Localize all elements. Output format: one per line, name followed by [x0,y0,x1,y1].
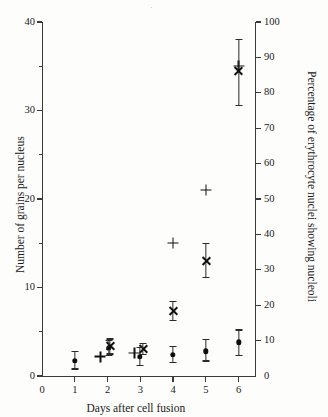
y-tick-left-30 [37,110,42,111]
error-bar-cap-lower [71,368,78,369]
y-minor-tick-left-5 [39,331,42,332]
x-ticklabel-6: 6 [229,385,249,396]
data-point-plus [200,185,211,196]
y-ticklabel-right-20: 20 [264,300,286,311]
x-ticklabel-3: 3 [130,385,150,396]
y-tick-right-100 [256,21,261,22]
x-tick-5 [205,377,206,382]
error-bar-cap-lower [235,355,242,356]
error-bar-cap-lower [235,105,242,106]
error-bar-cap-upper [235,329,242,330]
x-tick-2 [107,377,108,382]
x-axis-title: Days after cell fusion [87,402,186,414]
error-bar-cap-lower [170,362,177,363]
y-ticklabel-right-30: 30 [264,264,286,275]
y-tick-right-20 [256,305,261,306]
error-bar-cap-upper [105,340,112,341]
data-point-plus [95,351,106,362]
error-bar-cap-lower [136,365,143,366]
y-minor-tick-left-25 [39,154,42,155]
x-ticklabel-2: 2 [98,385,118,396]
error-bar-cap-lower [105,355,112,356]
y-tick-left-20 [37,198,42,199]
y-tick-right-80 [256,92,261,93]
x-tick-4 [172,377,173,382]
y-axis-left-line [42,22,43,377]
error-bar-cap-upper [170,346,177,347]
error-bar-cap-lower [202,277,209,278]
y-tick-right-30 [256,269,261,270]
error-bar-cap-upper [71,351,78,352]
figure-scatter-plot: · Number of grains per nucleus Percentag… [0,0,328,417]
error-bar-cap-upper [136,347,143,348]
x-tick-1 [74,377,75,382]
y-tick-right-90 [256,57,261,58]
error-bar-cap-lower [202,360,209,361]
y-ticklabel-left-0: 0 [10,371,35,382]
x-tick-6 [238,377,239,382]
y-tick-left-10 [37,287,42,288]
error-bar-cap-lower [170,320,177,321]
page-artifact-mark: · [150,2,153,12]
data-point-cross [168,306,179,317]
error-bar-cap-upper [170,301,177,302]
plot-area [42,22,255,376]
y-ticklabel-left-30: 30 [10,105,35,116]
y-ticklabel-left-20: 20 [10,194,35,205]
y-tick-right-50 [256,198,261,199]
y-ticklabel-right-70: 70 [264,123,286,134]
data-point-cross [200,255,211,266]
data-point-plus [168,238,179,249]
y-ticklabel-left-40: 40 [10,17,35,28]
x-tick-3 [140,377,141,382]
y-ticklabel-left-10: 10 [10,282,35,293]
y-ticklabel-right-50: 50 [264,194,286,205]
y-axis-right-title: Percentage of erythrocyte nuclei showing… [306,71,318,302]
x-ticklabel-4: 4 [163,385,183,396]
data-point-cross [233,65,244,76]
y-ticklabel-right-90: 90 [264,52,286,63]
error-bar-cap-upper [235,39,242,40]
error-bar-cap-upper [202,243,209,244]
y-ticklabel-right-0: 0 [264,371,286,382]
y-ticklabel-right-10: 10 [264,335,286,346]
y-ticklabel-right-80: 80 [264,87,286,98]
x-ticklabel-0: 0 [32,385,52,396]
y-ticklabel-right-40: 40 [264,229,286,240]
x-ticklabel-5: 5 [196,385,216,396]
y-tick-right-60 [256,163,261,164]
y-ticklabel-right-100: 100 [264,17,286,28]
y-minor-tick-left-35 [39,66,42,67]
error-bar-cap-upper [202,339,209,340]
y-ticklabel-right-60: 60 [264,158,286,169]
y-tick-left-40 [37,21,42,22]
x-ticklabel-1: 1 [65,385,85,396]
y-minor-tick-left-15 [39,243,42,244]
y-tick-right-10 [256,340,261,341]
y-tick-left-0 [37,375,42,376]
y-axis-left-title: Number of grains per nucleus [14,136,26,273]
y-tick-right-40 [256,234,261,235]
y-tick-right-70 [256,128,261,129]
